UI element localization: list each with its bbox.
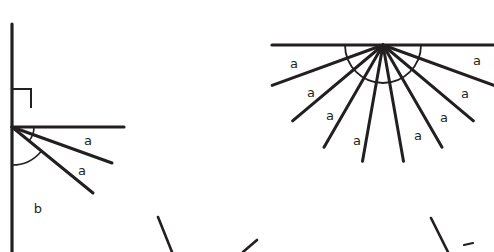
label-a-3: a xyxy=(326,108,334,123)
diagram-canvas: aab aaaaaaaa xyxy=(0,0,494,252)
label-a-1: a xyxy=(84,133,92,148)
label-a-7: a xyxy=(461,86,469,101)
label-a-8: a xyxy=(473,53,481,68)
label-a-4: a xyxy=(353,133,361,148)
label-a-6: a xyxy=(440,110,448,125)
label-b-1: b xyxy=(34,201,42,216)
geometry-figure-svg: aab aaaaaaaa xyxy=(0,0,494,252)
label-a-2: a xyxy=(307,85,315,100)
label-a-5: a xyxy=(414,128,422,143)
label-a-1: a xyxy=(290,56,298,71)
label-a-2: a xyxy=(78,163,86,178)
